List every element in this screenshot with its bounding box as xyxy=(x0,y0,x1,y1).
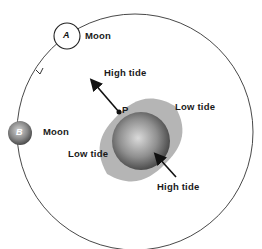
high-tide-arrow-top xyxy=(94,83,119,112)
point-p-label: P xyxy=(122,104,129,115)
moon-b-letter: B xyxy=(16,127,23,137)
low-tide-left-label: Low tide xyxy=(68,148,108,159)
high-tide-top-label: High tide xyxy=(104,67,146,78)
high-tide-bottom-label: High tide xyxy=(157,181,199,192)
orbit-direction-arrow-icon xyxy=(36,68,43,74)
moon-a-letter: A xyxy=(63,30,70,40)
moon-b-label: Moon xyxy=(43,126,69,137)
low-tide-right-label: Low tide xyxy=(175,101,215,112)
moon-a-label: Moon xyxy=(85,30,111,41)
tide-diagram xyxy=(0,0,262,249)
